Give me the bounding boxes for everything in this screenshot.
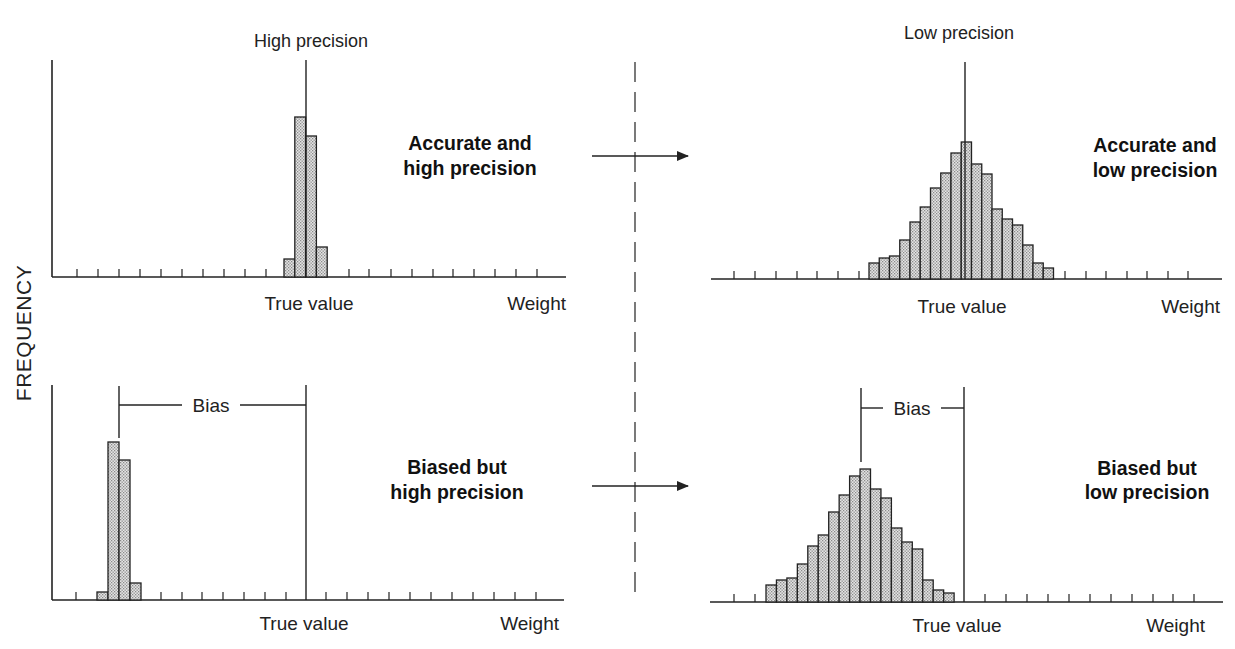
- histogram-bar: [1023, 245, 1033, 279]
- histogram-bar: [910, 222, 920, 279]
- histogram-bar: [850, 476, 860, 602]
- histogram-bar: [284, 259, 295, 277]
- histogram-bar: [972, 164, 982, 279]
- panel-annotation-line: high precision: [403, 157, 536, 179]
- frequency-axis-label: FREQUENCY: [12, 265, 35, 401]
- histogram-bar: [860, 469, 870, 602]
- true-value-label: True value: [259, 613, 348, 634]
- histogram-bar: [871, 489, 881, 602]
- true-value-label: True value: [264, 293, 353, 314]
- panel-top-left: High precision Accurate andhigh precisio…: [52, 31, 567, 314]
- panel-bottom-right: BiasBiased butlow precisionTrue valueWei…: [710, 387, 1223, 636]
- column-title-low-precision: Low precision: [904, 23, 1014, 43]
- histogram-bar: [944, 593, 954, 602]
- histogram-bar: [879, 258, 889, 279]
- panel-annotation-line: Biased but: [407, 456, 507, 478]
- true-value-label: True value: [912, 615, 1001, 636]
- histogram-bar: [869, 263, 879, 279]
- histogram-bar: [891, 528, 901, 602]
- histogram-bar: [923, 580, 933, 602]
- histogram-bar: [912, 549, 922, 602]
- histogram-bar: [931, 188, 941, 279]
- histogram-bar: [982, 174, 992, 279]
- true-value-label: True value: [917, 296, 1006, 317]
- panel-annotation-line: Accurate and: [1093, 134, 1217, 156]
- column-title-high-precision: High precision: [254, 31, 368, 51]
- transition-arrows: [592, 156, 688, 486]
- histogram-bar: [776, 580, 786, 602]
- histogram-bar: [766, 585, 776, 602]
- panel-annotation-line: low precision: [1085, 481, 1210, 503]
- x-axis-label-weight: Weight: [1161, 296, 1221, 317]
- x-axis-label-weight: Weight: [507, 293, 567, 314]
- histogram-bar: [97, 592, 108, 600]
- histogram-bar: [1013, 225, 1023, 279]
- bias-label: Bias: [894, 398, 931, 419]
- histogram-bar: [839, 495, 849, 602]
- histogram-bar: [890, 256, 900, 279]
- bias-label: Bias: [193, 395, 230, 416]
- histogram-bar: [902, 542, 912, 602]
- precision-accuracy-figure: FREQUENCY High precision Accurate andhig…: [0, 0, 1235, 649]
- histogram-bar: [1002, 219, 1012, 279]
- histogram-bar: [900, 240, 910, 279]
- histogram-bar: [881, 498, 891, 602]
- panel-annotation-line: Accurate and: [408, 132, 532, 154]
- histogram-bar: [829, 512, 839, 602]
- panel-top-right: Low precision Accurate andlow precisionT…: [711, 23, 1222, 317]
- histogram-bar: [1033, 263, 1043, 279]
- histogram-bar: [316, 247, 327, 277]
- histogram-bar: [797, 564, 807, 602]
- histogram-bar: [951, 153, 961, 279]
- histogram-bar: [920, 207, 930, 279]
- histogram-bar: [295, 117, 306, 277]
- histogram-bar: [119, 460, 130, 600]
- histogram-bar: [961, 142, 971, 279]
- panel-annotation-line: Biased but: [1097, 457, 1197, 479]
- histogram-bar: [941, 173, 951, 279]
- panel-annotation-line: low precision: [1093, 159, 1218, 181]
- x-axis-label-weight: Weight: [500, 613, 560, 634]
- panel-bottom-left: BiasBiased buthigh precisionTrue valueWe…: [52, 385, 564, 634]
- histogram-bar: [787, 578, 797, 602]
- histogram-bar: [992, 209, 1002, 279]
- histogram-bar: [933, 590, 943, 602]
- histogram-bar: [1043, 268, 1053, 279]
- x-axis-label-weight: Weight: [1146, 615, 1206, 636]
- histogram-bar: [306, 136, 317, 277]
- histogram-bar: [808, 546, 818, 602]
- histogram-bar: [108, 442, 119, 600]
- histogram-bar: [818, 535, 828, 602]
- panel-annotation-line: high precision: [390, 481, 523, 503]
- histogram-bar: [130, 583, 141, 600]
